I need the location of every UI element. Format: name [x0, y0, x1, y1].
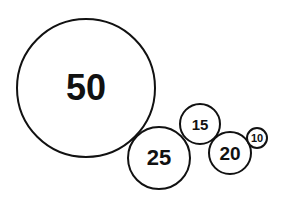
bubble-label: 20	[219, 144, 240, 163]
bubble-label: 50	[66, 70, 106, 106]
bubble-25: 25	[127, 126, 191, 190]
bubble-10: 10	[246, 127, 268, 149]
bubble-label: 10	[251, 133, 263, 144]
bubble-label: 15	[192, 117, 209, 132]
bubble-label: 25	[147, 147, 171, 169]
bubble-diagram: 50 25 15 20 10	[0, 0, 285, 208]
